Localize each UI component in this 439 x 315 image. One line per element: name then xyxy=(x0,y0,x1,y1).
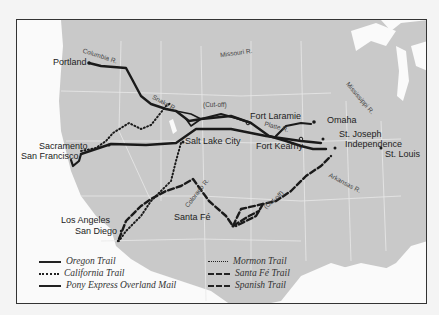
map-frame: Portland Sacramento San Francisco Salt L… xyxy=(16,19,427,304)
city-label-st-louis: St. Louis xyxy=(385,150,420,159)
city-label-st-joseph: St. Joseph xyxy=(339,130,382,139)
legend-swatch-solid xyxy=(39,285,61,287)
legend-item-santa-fe-trail: Santa Fé Trail xyxy=(208,269,290,279)
city-label-san-francisco: San Francisco xyxy=(21,152,79,161)
city-label-los-angeles: Los Angeles xyxy=(61,216,110,225)
legend-swatch-dashed xyxy=(208,273,230,275)
legend-swatch-solid xyxy=(39,261,61,263)
city-label-independence: Independence xyxy=(345,140,402,149)
city-label-salt-lake-city: Salt Lake City xyxy=(185,137,241,146)
legend-item-spanish-trail: Spanish Trail xyxy=(208,281,286,291)
legend-swatch-dotted xyxy=(208,261,228,262)
city-label-sacramento: Sacramento xyxy=(39,142,88,151)
legend-swatch-dashed xyxy=(208,285,230,287)
city-label-santa-fe: Santa Fé xyxy=(174,213,211,222)
city-label-portland: Portland xyxy=(53,58,87,67)
legend-item-pony-express: Pony Express Overland Mail xyxy=(39,281,176,291)
legend-item-mormon-trail: Mormon Trail xyxy=(208,257,287,267)
legend-swatch-dotted xyxy=(39,273,59,275)
city-label-fort-kearny: Fort Kearny xyxy=(256,142,303,151)
legend-item-california-trail: California Trail xyxy=(39,269,124,279)
city-label-omaha: Omaha xyxy=(327,116,357,125)
city-label-fort-laramie: Fort Laramie xyxy=(250,112,301,121)
city-label-san-diego: San Diego xyxy=(75,227,117,236)
legend-item-oregon-trail: Oregon Trail xyxy=(39,257,116,267)
annotation-cutoff-north: (Cut-off) xyxy=(203,102,227,109)
